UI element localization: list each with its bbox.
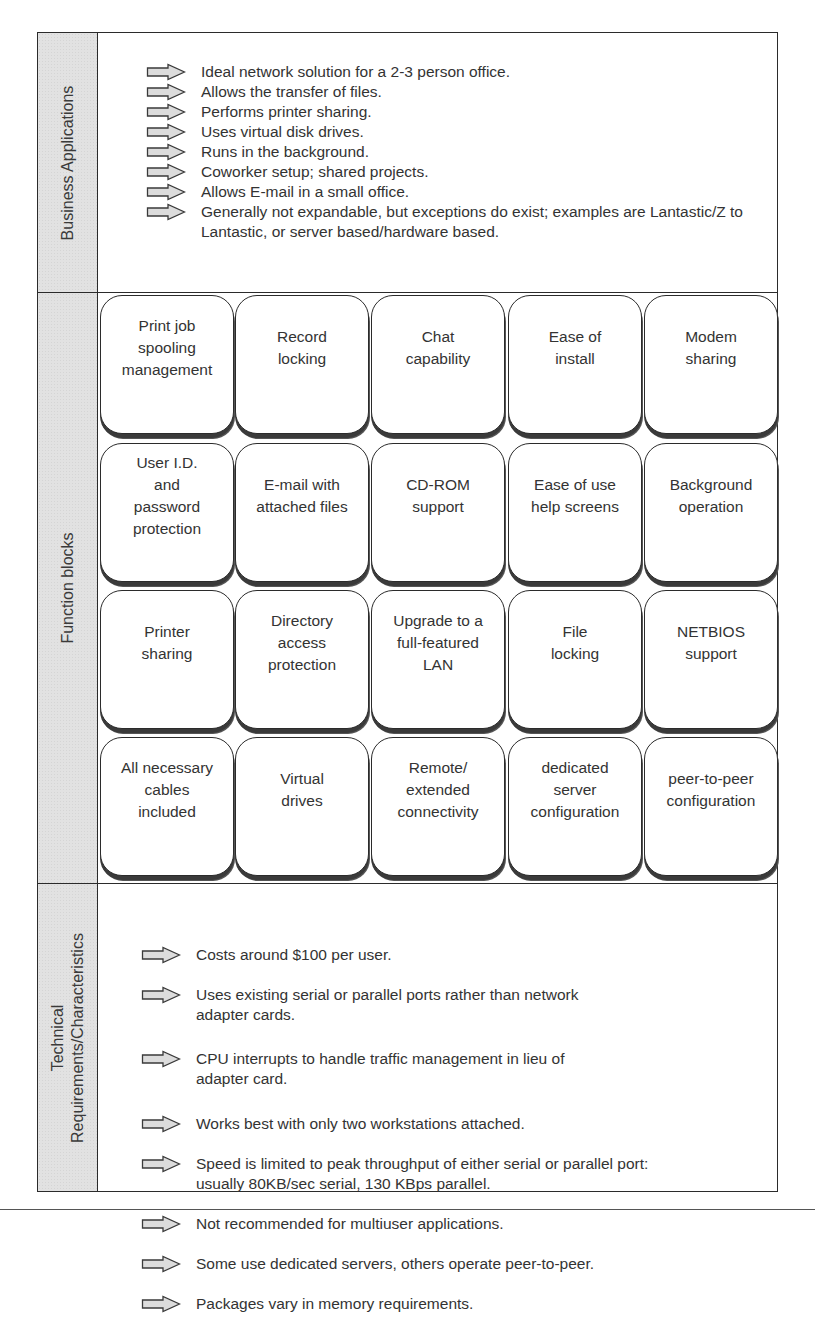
function-tile: Virtual drives [235, 737, 369, 876]
technical-requirements-label: Technical Requirements/Characteristics [48, 933, 88, 1143]
function-tile: Background operation [644, 443, 778, 582]
right-arrow-icon [146, 163, 186, 181]
right-arrow-icon [146, 103, 186, 121]
business-applications-list: Ideal network solution for a 2-3 person … [146, 62, 766, 242]
technical-requirements-list: Costs around $100 per user. Uses existin… [141, 925, 761, 1317]
page-bottom-rule [0, 1209, 815, 1210]
function-tile: Chat capability [371, 295, 505, 434]
right-arrow-icon [146, 63, 186, 81]
business-applications-sidebar: Business Applications [38, 33, 98, 292]
function-blocks-sidebar: Function blocks [38, 293, 98, 883]
function-blocks-label: Function blocks [58, 532, 78, 643]
function-tile: User I.D. and password protection [100, 443, 234, 582]
right-arrow-icon [141, 1115, 181, 1133]
right-arrow-icon [141, 1215, 181, 1233]
list-item: Uses existing serial or parallel ports r… [141, 985, 761, 1025]
list-item: Not recommended for multiuser applicatio… [141, 1214, 761, 1234]
function-tile: CD-ROM support [371, 443, 505, 582]
list-item: Ideal network solution for a 2-3 person … [146, 62, 766, 82]
right-arrow-icon [146, 123, 186, 141]
list-item: Uses virtual disk drives. [146, 122, 766, 142]
function-tile: Printer sharing [100, 590, 234, 729]
right-arrow-icon [146, 203, 186, 221]
list-item: CPU interrupts to handle traffic managem… [141, 1049, 761, 1089]
list-item: Costs around $100 per user. [141, 945, 761, 965]
business-applications-content: Ideal network solution for a 2-3 person … [98, 33, 777, 292]
business-applications-label: Business Applications [58, 85, 78, 240]
function-tile: Ease of install [508, 295, 642, 434]
function-tile: E-mail with attached files [235, 443, 369, 582]
list-item: Works best with only two workstations at… [141, 1114, 761, 1134]
function-tile: Upgrade to a full-featured LAN [371, 590, 505, 729]
function-tile: Ease of use help screens [508, 443, 642, 582]
function-tile: Record locking [235, 295, 369, 434]
technical-requirements-content: Costs around $100 per user. Uses existin… [98, 884, 777, 1191]
function-tile: Print job spooling management [100, 295, 234, 434]
business-applications-section: Business Applications Ideal network solu… [38, 33, 777, 293]
right-arrow-icon [141, 946, 181, 964]
right-arrow-icon [141, 1050, 181, 1068]
right-arrow-icon [146, 83, 186, 101]
list-item: Generally not expandable, but exceptions… [146, 202, 766, 242]
list-item: Allows E-mail in a small office. [146, 182, 766, 202]
list-item: Coworker setup; shared projects. [146, 162, 766, 182]
right-arrow-icon [146, 183, 186, 201]
list-item: Performs printer sharing. [146, 102, 766, 122]
function-tile: Directory access protection [235, 590, 369, 729]
list-item: Speed is limited to peak throughput of e… [141, 1154, 761, 1194]
function-tile: dedicated server configuration [508, 737, 642, 876]
list-item: Packages vary in memory requirements. [141, 1294, 761, 1314]
list-item: Allows the transfer of files. [146, 82, 766, 102]
function-tile: Modem sharing [644, 295, 778, 434]
function-blocks-content: Print job spooling management Record loc… [98, 293, 777, 883]
function-tile: File locking [508, 590, 642, 729]
function-tile: NETBIOS support [644, 590, 778, 729]
right-arrow-icon [141, 986, 181, 1004]
function-grid: Print job spooling management Record loc… [99, 294, 778, 882]
function-blocks-section: Function blocks Print job spooling manag… [38, 293, 777, 884]
right-arrow-icon [141, 1255, 181, 1273]
right-arrow-icon [146, 143, 186, 161]
technical-requirements-section: Technical Requirements/Characteristics C… [38, 884, 777, 1191]
right-arrow-icon [141, 1155, 181, 1173]
right-arrow-icon [141, 1295, 181, 1313]
list-item: Some use dedicated servers, others opera… [141, 1254, 761, 1274]
list-item: Runs in the background. [146, 142, 766, 162]
function-tile: Remote/ extended connectivity [371, 737, 505, 876]
function-tile: peer-to-peer configuration [644, 737, 778, 876]
technical-requirements-sidebar: Technical Requirements/Characteristics [38, 884, 98, 1191]
function-tile: All necessary cables included [100, 737, 234, 876]
diagram-frame: Business Applications Ideal network solu… [37, 32, 778, 1192]
